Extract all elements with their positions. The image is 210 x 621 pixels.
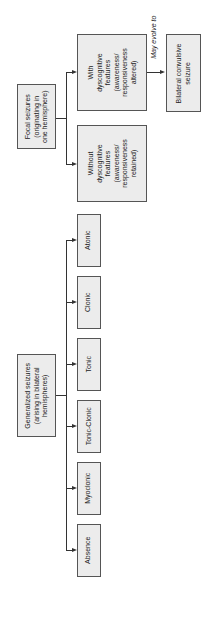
generalized-root-line-1: Generalized seizures [24,363,33,429]
without-line-1: Without [86,139,95,188]
without-line-5: responsiveness [120,139,129,188]
with-line-1: With [86,48,95,97]
generalized-connector-v [66,240,67,550]
focal-root-line-1: Focal seizures [24,90,33,143]
without-line-6: retained) [129,139,138,188]
generalized-connector-h [56,395,66,396]
without-line-4: (awareness/ [112,139,121,188]
bilateral-line-2: seizure [184,43,193,103]
may-evolve-label: May evolve to [145,10,165,65]
without-dyscognitive-box: Without dyscognitive features (awareness… [77,125,147,202]
focal-root-line-3: one hemisphere) [41,90,50,143]
focal-connector-v [66,72,67,165]
without-line-2: dyscognitive [95,139,104,188]
with-dyscognitive-box: With dyscognitive features (awareness/ r… [77,34,147,111]
tonic-box: Tonic [77,338,101,391]
generalized-root-line-3: hemispheres) [41,363,50,429]
generalized-root-line-2: (arising in bilateral [32,363,41,429]
without-line-3: features [103,139,112,188]
clonic-box: Clonic [77,276,101,329]
with-line-6: altered) [129,48,138,97]
arrow-icon [160,70,165,74]
bilateral-convulsive-box: Bilateral convulsive seizure [166,34,201,112]
with-line-4: (awareness/ [112,48,121,97]
tonic-clonic-box: Tonic-Clonic [77,400,101,453]
myoclonic-box: Myoclonic [77,462,101,515]
with-line-2: dyscognitive [95,48,104,97]
focal-seizures-box: Focal seizures (originating in one hemis… [17,84,56,149]
focal-connector-h [56,118,66,119]
bilateral-line-1: Bilateral convulsive [175,43,184,103]
with-line-5: responsiveness [120,48,129,97]
focal-root-line-2: (originating in [32,90,41,143]
atonic-box: Atonic [77,214,101,267]
with-line-3: features [103,48,112,97]
absence-box: Absence [77,524,101,577]
generalized-seizures-box: Generalized seizures (arising in bilater… [17,354,56,437]
